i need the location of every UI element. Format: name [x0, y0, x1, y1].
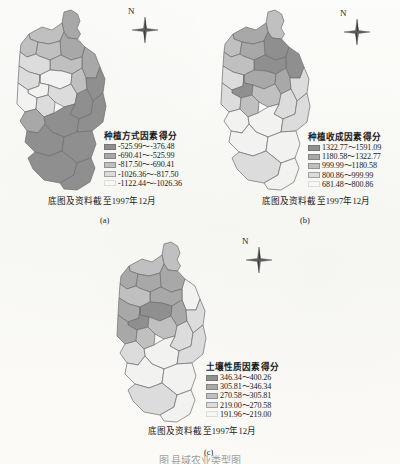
- panel-caption-a: (a): [100, 216, 109, 226]
- legend-label-c-2: 305.81～346.34: [220, 382, 271, 391]
- compass-north-label-b: N: [340, 8, 356, 18]
- source-note-a: 底图及资料截至1997年12月: [48, 196, 156, 206]
- legend-swatch-b-5: [308, 181, 320, 187]
- legend-title-a: 种植方式因素得分: [104, 131, 182, 142]
- legend-label-a-1: -525.99～-376.48: [118, 142, 174, 151]
- legend-b: 种植收成因素得分 1322.77～1591.09 1180.58～1322.77…: [308, 132, 381, 189]
- compass-rose-b: N: [340, 8, 374, 50]
- legend-label-c-3: 270.58～305.81: [220, 391, 271, 400]
- legend-label-b-3: 999.99～1180.58: [322, 161, 377, 170]
- legend-swatch-c-1: [206, 375, 218, 381]
- compass-rose-c: N: [242, 236, 276, 278]
- map-panel-a: N: [0, 0, 200, 232]
- legend-label-a-5: -1122.44～-1026.36: [118, 179, 182, 188]
- panel-caption-b: (b): [300, 216, 310, 226]
- legend-row-c-3: 270.58～305.81: [206, 391, 279, 400]
- legend-swatch-a-1: [104, 144, 116, 150]
- map-unit-c-6: [182, 279, 200, 310]
- legend-label-a-4: -1026.36～-817.50: [118, 170, 178, 179]
- compass-star-icon-b: [344, 19, 370, 45]
- compass-north-label-a: N: [128, 6, 144, 16]
- choropleth-map-b: [216, 8, 321, 208]
- legend-title-b: 种植收成因素得分: [308, 132, 381, 143]
- legend-row-b-2: 1180.58～1322.77: [308, 152, 381, 161]
- legend-row-b-3: 999.99～1180.58: [308, 161, 381, 170]
- map-panel-b: N: [200, 0, 400, 232]
- legend-row-a-4: -1026.36～-817.50: [104, 170, 182, 179]
- source-note-b: 底图及资料截至1997年12月: [262, 196, 370, 206]
- legend-label-b-1: 1322.77～1591.09: [322, 143, 381, 152]
- legend-swatch-b-4: [308, 172, 320, 178]
- legend-label-a-3: -817.50～-690.41: [118, 160, 174, 169]
- legend-row-b-1: 1322.77～1591.09: [308, 143, 381, 152]
- map-unit-b-6: [286, 47, 304, 78]
- legend-c: 土壤性质因素得分 346.34～400.26 305.81～346.34 270…: [206, 362, 279, 419]
- legend-row-c-4: 219.00～270.58: [206, 401, 279, 410]
- legend-label-c-5: 191.96～219.00: [220, 410, 271, 419]
- legend-row-c-2: 305.81～346.34: [206, 382, 279, 391]
- choropleth-map-a: [12, 8, 117, 208]
- legend-swatch-b-3: [308, 163, 320, 169]
- map-unit-a-6: [82, 47, 100, 78]
- legend-swatch-a-3: [104, 162, 116, 168]
- legend-row-a-2: -690.41～-525.99: [104, 151, 182, 160]
- legend-row-c-5: 191.96～219.00: [206, 410, 279, 419]
- legend-swatch-c-4: [206, 402, 218, 408]
- legend-label-b-4: 800.86～999.99: [322, 171, 373, 180]
- compass-rose-a: N: [128, 6, 162, 48]
- legend-swatch-c-2: [206, 384, 218, 390]
- map-svg-b: [216, 8, 321, 208]
- map-svg-a: [12, 8, 117, 208]
- compass-star-icon-a: [132, 17, 158, 43]
- legend-label-a-2: -690.41～-525.99: [118, 151, 174, 160]
- legend-row-b-4: 800.86～999.99: [308, 171, 381, 180]
- legend-row-a-5: -1122.44～-1026.36: [104, 179, 182, 188]
- map-panel-c: N: [100, 230, 320, 464]
- legend-swatch-a-5: [104, 180, 116, 186]
- legend-label-c-4: 219.00～270.58: [220, 401, 271, 410]
- legend-swatch-a-4: [104, 171, 116, 177]
- legend-row-b-5: 681.48～800.86: [308, 180, 381, 189]
- legend-row-c-1: 346.34～400.26: [206, 373, 279, 382]
- legend-swatch-b-2: [308, 154, 320, 160]
- compass-star-icon-c: [246, 247, 272, 273]
- map-svg-c: [112, 240, 217, 440]
- legend-swatch-c-3: [206, 393, 218, 399]
- legend-label-c-1: 346.34～400.26: [220, 373, 271, 382]
- source-note-c: 底图及资料截至1997年12月: [148, 426, 256, 436]
- legend-label-b-2: 1180.58～1322.77: [322, 152, 381, 161]
- legend-title-c: 土壤性质因素得分: [206, 362, 279, 373]
- compass-north-label-c: N: [242, 236, 258, 246]
- choropleth-map-c: [112, 240, 217, 440]
- legend-swatch-a-2: [104, 153, 116, 159]
- legend-row-a-1: -525.99～-376.48: [104, 142, 182, 151]
- legend-swatch-c-5: [206, 411, 218, 417]
- legend-swatch-b-1: [308, 145, 320, 151]
- legend-label-b-5: 681.48～800.86: [322, 180, 373, 189]
- legend-a: 种植方式因素得分 -525.99～-376.48 -690.41～-525.99…: [104, 131, 182, 188]
- legend-row-a-3: -817.50～-690.41: [104, 160, 182, 169]
- figure-caption: 图 县域农业类型图: [0, 455, 400, 464]
